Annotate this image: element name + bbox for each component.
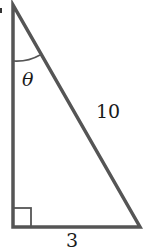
angle-arc bbox=[13, 55, 40, 61]
right-angle-marker bbox=[13, 208, 31, 227]
angle-theta-label: θ bbox=[22, 70, 33, 89]
base-length-label: 3 bbox=[66, 231, 78, 250]
hypotenuse-length-label: 10 bbox=[96, 102, 120, 121]
right-triangle bbox=[13, 5, 140, 227]
edge-mark bbox=[0, 8, 2, 13]
